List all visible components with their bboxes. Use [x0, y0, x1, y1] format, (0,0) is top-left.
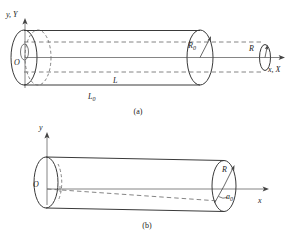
panel-b-caption: (b)	[142, 221, 152, 230]
panel-a-y-axis-label: y, Y	[5, 10, 19, 19]
panel-b-y-axis-label: y	[38, 123, 43, 132]
panel-a-origin-label: O	[14, 58, 20, 67]
panel-b-x-axis-label: x	[257, 196, 262, 205]
panel-b-radius-label: R	[221, 165, 227, 174]
panel-b-origin-label: O	[33, 180, 39, 189]
figure-background	[0, 0, 294, 238]
panel-a-small-radius-label: R	[248, 44, 254, 53]
panel-a-length-label: L	[112, 76, 118, 85]
panel-a-x-axis-label: x, X	[267, 65, 282, 74]
panel-a-caption: (a)	[134, 107, 143, 116]
figure-cylinder-deformation: y, Y x, X O R0 R L L0 (a)	[0, 0, 294, 238]
